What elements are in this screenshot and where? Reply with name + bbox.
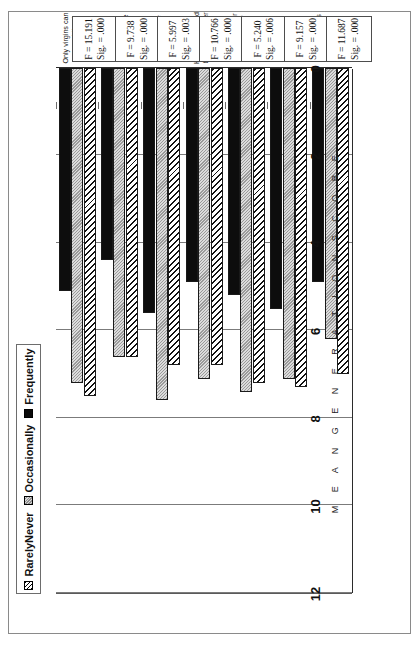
- legend-item-frequently: Frequently: [23, 348, 35, 417]
- category-tick: [183, 102, 184, 109]
- chart-legend: RarelyNever Occasionally Frequently: [16, 344, 41, 594]
- significance-value: Sig. = .000: [95, 18, 108, 60]
- significance-value: Sig. = .006: [264, 18, 277, 60]
- f-statistic: F = 10.766: [209, 18, 222, 60]
- stat-box: F = 10.766Sig. = .000: [199, 16, 245, 62]
- bar-rarelynever: [126, 68, 138, 357]
- significance-value: Sig. = .000: [307, 18, 320, 60]
- bar-rarelynever: [253, 68, 265, 383]
- black-solid-swatch-icon: [24, 409, 33, 418]
- bar-rarelynever: [295, 68, 307, 387]
- category-tick: [310, 102, 311, 109]
- tick-label: 0: [308, 65, 323, 72]
- legend-item-rarelynever: RarelyNever: [23, 512, 35, 589]
- bar-occasionally: [283, 68, 295, 379]
- f-statistic: F = 9.157: [294, 21, 307, 58]
- bar-occasionally: [113, 68, 125, 357]
- bar-frequently: [312, 68, 324, 282]
- stat-box: F = 9.157Sig. = .000: [284, 16, 330, 62]
- tick-label: 10: [308, 499, 323, 513]
- chart-page: RarelyNever Occasionally Frequently 1210…: [0, 0, 419, 645]
- bar-frequently: [186, 68, 198, 282]
- significance-value: Sig. = .000: [222, 18, 235, 60]
- bar-occasionally: [198, 68, 210, 379]
- stat-box: F = 5.997Sig. = .003: [157, 16, 203, 62]
- significance-value: Sig. = .000: [349, 18, 362, 60]
- category-tick: [98, 102, 99, 109]
- bar-occasionally: [156, 68, 168, 401]
- category-tick: [225, 102, 226, 109]
- bar-frequently: [143, 68, 155, 313]
- bar-frequently: [270, 68, 282, 309]
- tick-label: 2: [308, 153, 323, 160]
- category-tick: [56, 102, 57, 109]
- bar-rarelynever: [168, 68, 180, 366]
- stat-box: F = 15.191Sig. = .000: [72, 16, 118, 62]
- bar-rarelynever: [211, 68, 223, 366]
- gray-dotted-swatch-icon: [24, 496, 33, 505]
- bar-frequently: [228, 68, 240, 296]
- category-axis-line: [352, 69, 353, 593]
- tick-label: 12: [308, 587, 323, 601]
- hatch-diagonal-swatch-icon: [24, 581, 33, 590]
- category-tick: [267, 102, 268, 109]
- rotated-chart-container: RarelyNever Occasionally Frequently 1210…: [8, 11, 411, 634]
- bar-occasionally: [240, 68, 252, 392]
- stat-box: F = 5.240Sig. = .006: [241, 16, 287, 62]
- bar-rarelynever: [84, 68, 96, 396]
- bar-occasionally: [71, 68, 83, 383]
- stat-box: F = 11.687Sig. = .000: [326, 16, 372, 62]
- f-statistic: F = 9.738: [125, 21, 138, 58]
- f-statistic: F = 15.191: [83, 18, 96, 60]
- f-statistic: F = 5.997: [167, 21, 180, 58]
- bar-frequently: [101, 68, 113, 261]
- bar-frequently: [59, 68, 71, 291]
- significance-value: Sig. = .003: [180, 18, 193, 60]
- legend-label: RarelyNever: [23, 512, 35, 576]
- tick-label: 6: [308, 328, 323, 335]
- stat-box: F = 9.738Sig. = .000: [115, 16, 161, 62]
- legend-label: Occasionally: [23, 425, 35, 493]
- axis-title: M E A N G E N E R A T I O N S C O R E: [330, 69, 340, 594]
- tick-label: 4: [308, 240, 323, 247]
- tick-label: 8: [308, 415, 323, 422]
- f-statistic: F = 11.687: [336, 18, 349, 59]
- f-statistic: F = 5.240: [252, 21, 265, 58]
- legend-item-occasionally: Occasionally: [23, 425, 35, 506]
- legend-label: Frequently: [23, 348, 35, 404]
- significance-value: Sig. = .000: [138, 18, 151, 60]
- figure-border: RarelyNever Occasionally Frequently 1210…: [8, 11, 411, 634]
- category-tick: [141, 102, 142, 109]
